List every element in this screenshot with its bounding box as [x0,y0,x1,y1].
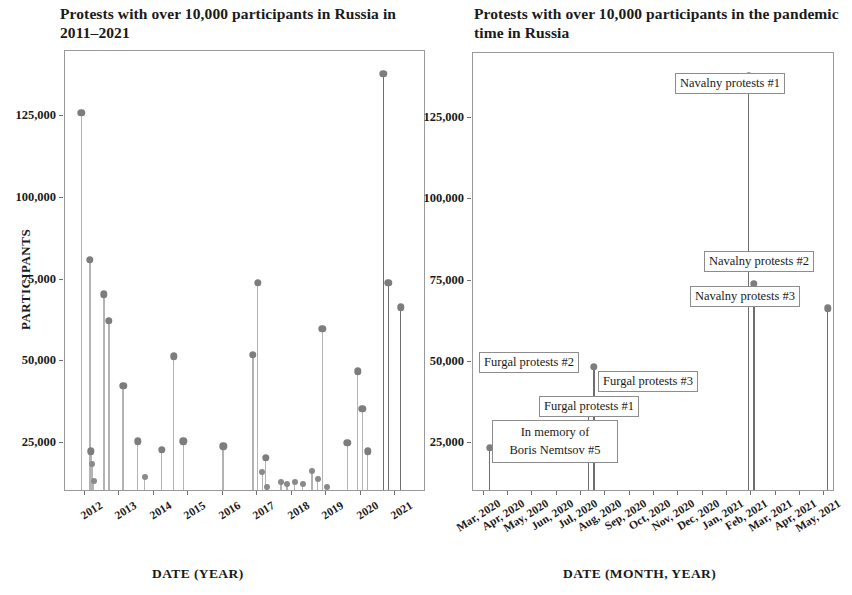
y-axis-tick-mark [59,115,63,116]
x-axis-tick-mark [153,491,154,495]
data-point-marker [158,446,165,453]
data-point-stem [103,294,104,490]
annotation-navalny-protests-2: Navalny protests #2 [704,251,814,272]
left-plot-area [64,50,425,491]
data-point-stem [489,448,490,490]
data-point-marker [89,461,95,467]
data-point-marker [359,405,366,412]
x-axis-tick-mark [325,491,326,495]
data-point-marker [380,70,387,77]
data-point-marker [397,304,404,311]
y-axis-tick-label: 50,000 [398,353,464,368]
data-point-stem [367,451,368,490]
x-axis-tick-mark [726,491,727,495]
data-point-stem [173,356,174,490]
data-point-stem [347,443,348,490]
data-point-stem [257,283,258,490]
x-axis-tick-mark [556,491,557,495]
data-point-marker [219,443,226,450]
data-point-marker [78,109,85,116]
annotation-in-memory-boris-nemtsov-5: In memory of Boris Nemtsov #5 [492,420,618,463]
y-axis-tick-mark [467,280,471,281]
data-point-stem [753,284,754,490]
y-axis-tick-label: 100,000 [0,190,56,205]
y-axis-tick-mark [467,198,471,199]
data-point-marker [105,317,112,324]
data-point-marker [142,474,148,480]
y-axis-tick-label: 75,000 [398,272,464,287]
x-axis-tick-mark [507,491,508,495]
data-point-marker [86,256,93,263]
data-point-stem [81,113,82,490]
data-point-stem [388,283,389,490]
left-x-axis-title: DATE (YEAR) [152,566,244,582]
data-point-marker [364,447,371,454]
left-chart-title: Protests with over 10,000 participants i… [60,4,410,42]
data-point-marker [319,325,326,332]
x-axis-tick-mark [653,491,654,495]
y-axis-tick-label: 100,000 [398,191,464,206]
right-chart-title: Protests with over 10,000 participants i… [474,4,839,42]
data-point-marker [134,438,141,445]
data-point-stem [252,355,253,490]
x-axis-tick-mark [118,491,119,495]
x-axis-tick-mark [291,491,292,495]
x-axis-tick-mark [823,491,824,495]
x-axis-tick-mark [580,491,581,495]
y-axis-tick-mark [467,442,471,443]
annotation-nemtsov-line-2: Boris Nemtsov #5 [499,441,611,459]
y-axis-tick-mark [59,197,63,198]
x-axis-tick-mark [394,491,395,495]
x-axis-tick-mark [256,491,257,495]
y-axis-tick-label: 125,000 [0,108,56,123]
x-axis-tick-mark [604,491,605,495]
y-axis-tick-label: 25,000 [0,435,56,450]
y-axis-tick-label: 75,000 [0,271,56,286]
right-chart-panel: Protests with over 10,000 participants i… [426,0,852,595]
x-axis-tick-mark [677,491,678,495]
data-point-stem [161,450,162,490]
data-point-marker [100,291,107,298]
data-point-marker [180,438,187,445]
x-axis-tick-mark [84,491,85,495]
x-axis-tick-mark [775,491,776,495]
data-point-marker [590,363,597,370]
annotation-navalny-protests-1: Navalny protests #1 [675,73,785,94]
data-point-marker [324,484,330,490]
y-axis-tick-mark [467,117,471,118]
data-point-stem [322,329,323,490]
data-point-marker [354,367,361,374]
data-point-marker [315,476,321,482]
data-point-marker [292,479,298,485]
figure-root: Protests with over 10,000 participants i… [0,0,852,595]
data-point-marker [264,484,270,490]
annotation-furgal-protests-3: Furgal protests #3 [598,371,698,392]
data-point-stem [137,441,138,490]
annotation-nemtsov-line-1: In memory of [499,423,611,441]
y-axis-tick-mark [59,442,63,443]
data-point-stem [827,308,828,490]
y-axis-tick-mark [59,279,63,280]
x-axis-tick-mark [750,491,751,495]
y-axis-tick-mark [467,361,471,362]
x-axis-tick-mark [222,491,223,495]
annotation-navalny-protests-3: Navalny protests #3 [690,286,800,307]
data-point-stem [122,386,123,490]
data-point-marker [262,454,269,461]
data-point-marker [344,439,351,446]
data-point-marker [309,468,315,474]
x-axis-tick-mark [799,491,800,495]
x-axis-tick-mark [531,491,532,495]
data-point-marker [249,351,256,358]
y-axis-tick-label: 50,000 [0,353,56,368]
data-point-marker [300,481,306,487]
data-point-stem [222,446,223,490]
data-point-marker [254,279,261,286]
data-point-stem [357,371,358,490]
data-point-marker [278,479,284,485]
annotation-furgal-protests-2: Furgal protests #2 [479,352,579,373]
data-point-marker [87,447,94,454]
x-axis-tick-mark [702,491,703,495]
data-point-marker [170,353,177,360]
y-axis-tick-label: 125,000 [398,110,464,125]
